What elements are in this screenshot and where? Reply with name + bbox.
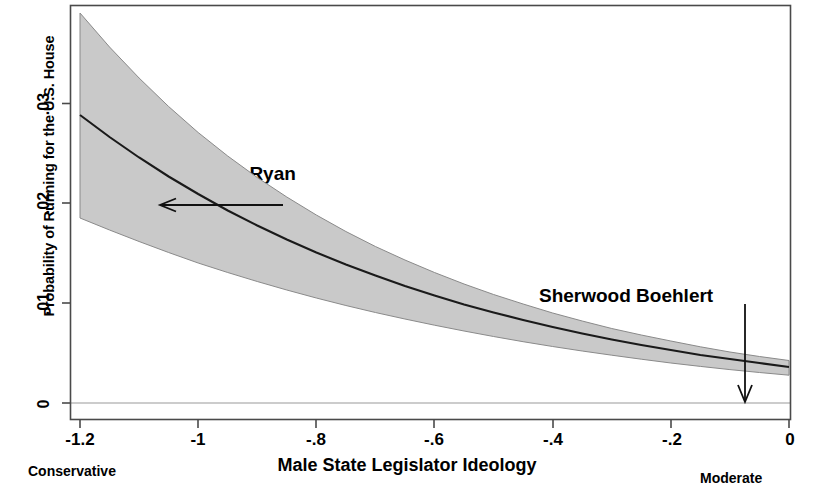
annotation-arrow-sherwood-boehlert: [738, 304, 752, 402]
x-axis-ticks: [80, 420, 789, 429]
confidence-band: [80, 13, 789, 375]
chart-figure: Probability of Running for the U.S. Hous…: [0, 0, 814, 491]
plot-canvas: [0, 0, 814, 491]
y-axis-ticks: [62, 104, 70, 404]
